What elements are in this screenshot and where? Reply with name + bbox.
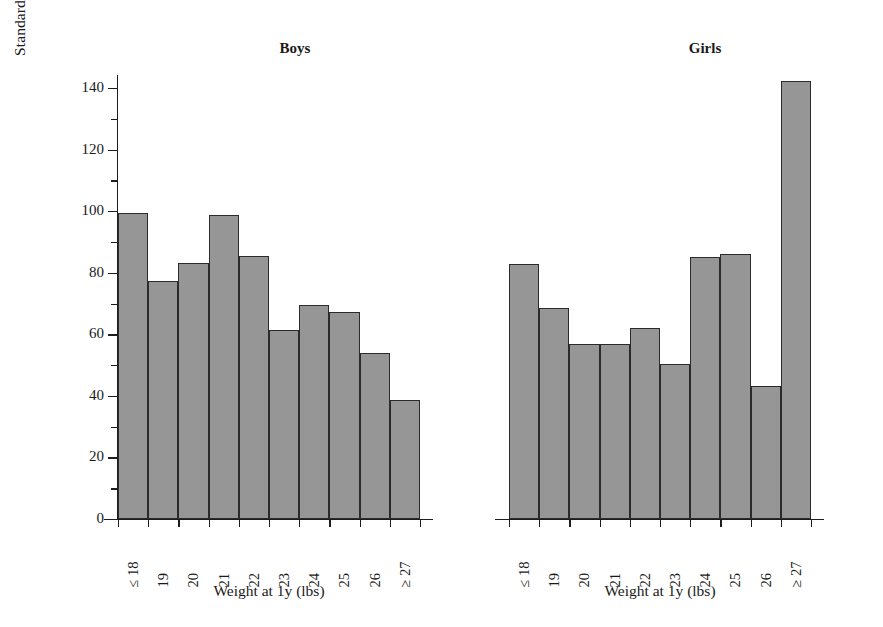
x-tick: [811, 519, 812, 527]
bar: [690, 257, 720, 519]
x-tick-label: 19: [148, 524, 178, 588]
bar-series-girls: [509, 63, 811, 519]
bar: [630, 328, 660, 519]
bar: [781, 81, 811, 519]
bar: [299, 305, 329, 519]
bar: [751, 386, 781, 519]
x-tick-label: 19: [539, 524, 569, 588]
bar: [569, 344, 599, 519]
x-axis-title-boys: Weight at 1y (lbs): [118, 582, 420, 600]
x-tick-label: 22: [239, 524, 269, 588]
plot-area-boys: [118, 63, 420, 519]
bar: [239, 256, 269, 519]
bar: [360, 353, 390, 519]
x-tick-label: 25: [329, 524, 359, 588]
bar-series-boys: [118, 63, 420, 519]
bar: [720, 254, 750, 519]
x-tick-label: ≤ 18: [509, 524, 539, 588]
bar: [660, 364, 690, 519]
plot-area-girls: [509, 63, 811, 519]
x-tick-label: 20: [178, 524, 208, 588]
x-tick-label: 26: [360, 524, 390, 588]
chart-figure: Standardized Mortality Ratio for CHD bef…: [0, 0, 883, 627]
x-tick-label: 21: [209, 524, 239, 588]
x-tick-label: ≤ 18: [118, 524, 148, 588]
bar: [118, 213, 148, 519]
x-tick-label: 21: [600, 524, 630, 588]
panel-title-girls: Girls: [665, 40, 745, 57]
x-tick-label: 26: [751, 524, 781, 588]
bar: [209, 215, 239, 519]
bar: [148, 281, 178, 519]
bar: [269, 330, 299, 519]
x-tick-label: 24: [299, 524, 329, 588]
bar: [509, 264, 539, 519]
bar: [329, 312, 359, 519]
x-tick-label: 25: [720, 524, 750, 588]
bar: [539, 308, 569, 519]
panel-title-boys: Boys: [255, 40, 335, 57]
x-tick-label: 20: [569, 524, 599, 588]
bar: [178, 263, 208, 519]
x-tick-label: 24: [690, 524, 720, 588]
x-tick-label: 23: [660, 524, 690, 588]
x-tick-label: ≥ 27: [781, 524, 811, 588]
bar: [600, 344, 630, 519]
x-tick-label: 22: [630, 524, 660, 588]
x-axis-title-girls: Weight at 1y (lbs): [509, 582, 811, 600]
x-tick-label: 23: [269, 524, 299, 588]
